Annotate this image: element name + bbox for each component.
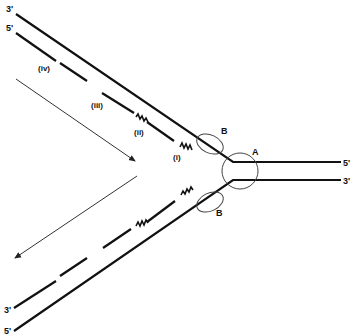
bottom-parental-strand — [14, 180, 341, 331]
primer-zigzag-bottom-2 — [136, 220, 148, 226]
bottom-fragmented-strand — [14, 187, 193, 308]
label-top-left-5prime: 5' — [6, 23, 13, 33]
label-right-5prime: 5' — [343, 158, 350, 168]
label-fragment-i: (i) — [173, 153, 181, 162]
label-bottom-left-5prime: 5' — [4, 326, 11, 336]
label-ssb-top-B: B — [221, 126, 228, 136]
top-fragmented-strand — [16, 33, 192, 150]
parental-duplex — [14, 14, 341, 331]
primer-zigzag-ii — [136, 114, 148, 122]
label-ssb-bottom-B: B — [216, 208, 223, 218]
helicase-ring-A — [222, 153, 258, 189]
label-right-3prime: 3' — [343, 176, 350, 186]
label-fragment-ii: (ii) — [134, 128, 144, 137]
arrow-down-right — [16, 79, 135, 161]
arrow-down-left — [15, 176, 137, 258]
label-fragment-iii: (iii) — [91, 101, 103, 110]
top-parental-strand — [16, 14, 341, 162]
label-helicase-A: A — [252, 147, 259, 157]
label-fragment-iv: (iv) — [38, 64, 50, 73]
primer-zigzag-i — [180, 143, 192, 150]
replication-fork-diagram: 3' 5' 5' 3' 3' 5' A B B (iv) (iii) (ii) … — [0, 0, 360, 336]
label-top-left-3prime: 3' — [6, 4, 13, 14]
label-bottom-left-3prime: 3' — [4, 305, 11, 315]
primer-zigzag-bottom-1 — [181, 187, 193, 195]
